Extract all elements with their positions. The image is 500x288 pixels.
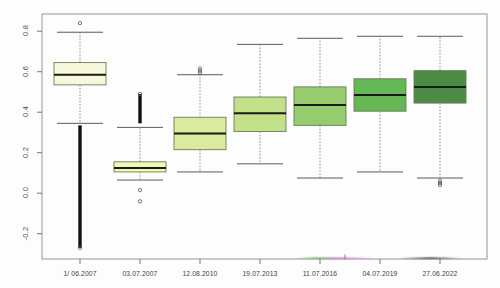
boxplot-group-5: [354, 36, 406, 172]
box-0[interactable]: [54, 63, 106, 85]
outlier-point-low-1-0: [138, 188, 141, 191]
boxplot-group-1: [114, 92, 166, 203]
chart-canvas: 0.80.60.40.20.0-0.2 1/ 06.200703.07.2007…: [0, 0, 500, 288]
box-1[interactable]: [114, 162, 166, 172]
scan-artifact-2: [399, 257, 461, 260]
y-axis-label-4: 0.0: [21, 182, 30, 204]
boxplot-group-4: [294, 38, 346, 178]
box-3[interactable]: [234, 97, 286, 131]
y-axis-label-1: 0.6: [21, 60, 30, 82]
plot-frame: [42, 14, 487, 259]
y-axis-label-5: -0.2: [21, 222, 30, 244]
x-axis-label-6: 27.06.2022: [405, 270, 475, 277]
box-4[interactable]: [294, 87, 346, 125]
boxplot-svg: [0, 0, 500, 288]
y-axis-label-3: 0.2: [21, 141, 30, 163]
boxplot-group-3: [234, 44, 286, 163]
scan-artifact-1: [295, 257, 375, 260]
boxplot-group-6: [414, 36, 466, 187]
scan-artifact-3: [344, 255, 346, 260]
boxplot-group-2: [174, 67, 226, 172]
y-axis-label-2: 0.4: [21, 101, 30, 123]
outlier-cluster-low-0: [78, 125, 81, 248]
y-axis-label-0: 0.8: [21, 20, 30, 42]
outlier-cluster-high-1: [138, 94, 141, 123]
boxplot-group-0: [54, 21, 106, 249]
outlier-point-high-0-0: [78, 21, 81, 24]
outlier-point-low-1-1: [138, 200, 141, 203]
